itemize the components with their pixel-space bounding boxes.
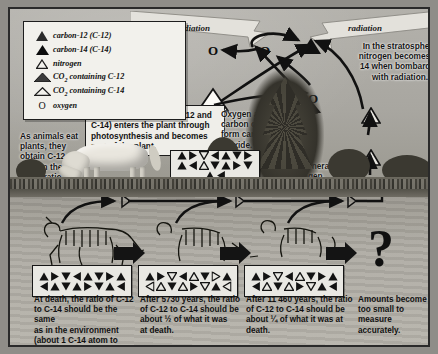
filled-triangle-icon (94, 272, 104, 281)
outline-triangle-icon (284, 282, 294, 291)
outline-triangle-icon (199, 151, 209, 160)
filled-triangle-icon (222, 272, 232, 281)
filled-triangle-icon (251, 281, 260, 291)
horse-tail (147, 144, 162, 172)
filled-triangle-icon (61, 272, 71, 281)
legend-label-0: carbon-12 (C-12) (53, 31, 111, 40)
outline-triangle-icon (199, 161, 209, 170)
filled-triangle-icon (189, 281, 198, 291)
caption-line: as in the environment (34, 326, 138, 336)
filled-triangle-dark-icon (31, 45, 53, 55)
outline-triangle-icon (262, 282, 272, 291)
filled-triangle-icon (145, 272, 155, 281)
horizon-strip (10, 177, 428, 199)
filled-triangle-icon (284, 271, 293, 281)
filled-triangle-icon (116, 281, 125, 291)
outline-triangle-icon (156, 282, 166, 291)
filled-triangle-icon (72, 282, 82, 291)
caption-line: every 10¹² C-12 atoms). (34, 346, 138, 347)
outline-triangle-icon (145, 281, 154, 291)
filled-triangle-icon (233, 160, 242, 170)
filled-triangle-icon (211, 282, 221, 291)
outline-triangle-icon (31, 59, 53, 69)
filled-triangle-icon (317, 271, 326, 281)
timeline-arrow-1 (114, 247, 134, 260)
filled-triangle-icon (221, 161, 231, 170)
filled-triangle-icon (328, 281, 337, 291)
filled-triangle-icon (94, 282, 104, 291)
outline-triangle-icon (167, 272, 177, 281)
timeline-arrow-2 (220, 247, 240, 260)
filled-triangle-icon (31, 31, 53, 41)
legend-label-5: oxygen (53, 101, 77, 110)
filled-triangle-icon (244, 150, 253, 160)
outline-triangle-icon (178, 282, 188, 291)
outline-wide-triangle-icon (31, 87, 53, 96)
caption-too-small: Amounts becometoo small tomeasure accura… (358, 295, 430, 336)
caption-line: about ¼ of what it was at (246, 315, 354, 325)
legend-item-co2-c14: CO2 containing C-14 (31, 85, 179, 98)
filled-triangle-icon (317, 282, 327, 291)
filled-triangle-icon (306, 272, 316, 281)
caption-line: to C-14 should be the same (34, 305, 138, 325)
legend-item-oxygen: O oxygen (31, 99, 179, 112)
filled-triangle-icon (167, 282, 177, 291)
legend-item-carbon-12: carbon-12 (C-12) (31, 29, 179, 42)
outline-triangle-icon (295, 272, 305, 281)
sample-box-at-death (32, 265, 132, 297)
diagram-canvas: radiation radiation In the stratosphere … (0, 0, 438, 354)
filled-triangle-icon (295, 281, 304, 291)
filled-wide-triangle-icon (31, 73, 53, 82)
outline-triangle-icon (200, 282, 210, 291)
caption-line: about ½ of what it was (140, 315, 244, 325)
caption-at-death: At death, the ratio of C-12to C-14 shoul… (34, 295, 138, 347)
caption-line: Amounts become (358, 295, 430, 305)
legend-label-2: nitrogen (53, 59, 82, 68)
filled-triangle-icon (210, 161, 220, 170)
outline-triangle-icon (211, 271, 220, 281)
legend-item-nitrogen: nitrogen (31, 57, 179, 70)
filled-triangle-icon (105, 271, 114, 281)
filled-triangle-icon (189, 160, 198, 170)
caption-line: measure accurately. (358, 315, 430, 335)
caption-line: After 11 460 years, the ratio (246, 295, 354, 305)
timeline-arrow-3 (326, 247, 346, 260)
filled-triangle-icon (177, 151, 187, 160)
filled-triangle-icon (72, 271, 81, 281)
filled-triangle-icon (232, 151, 242, 160)
outline-triangle-icon (189, 272, 199, 281)
filled-triangle-icon (50, 282, 60, 291)
legend-label-1: carbon-14 (C-14) (53, 45, 111, 54)
caption-line: death. (246, 326, 354, 336)
inner-frame: radiation radiation In the stratosphere … (8, 7, 430, 347)
outline-triangle-icon (273, 272, 283, 281)
question-mark-symbol: ? (368, 227, 394, 271)
filled-triangle-icon (156, 271, 165, 281)
legend-label-4: CO2 containing C-14 (53, 86, 124, 97)
legend-item-co2-c12: CO2 containing C-12 (31, 71, 179, 84)
legend-label-3: CO2 containing C-12 (53, 72, 124, 83)
caption-line: of C-12 to C-14 should be (246, 305, 354, 315)
filled-triangle-icon (243, 161, 253, 170)
filled-triangle-icon (50, 271, 59, 281)
filled-triangle-icon (200, 272, 210, 281)
sample-box-after-11460 (244, 265, 344, 297)
outline-triangle-icon (306, 282, 316, 291)
filled-triangle-icon (328, 272, 338, 281)
caption-line: too small to (358, 305, 430, 315)
outline-triangle-icon (222, 281, 231, 291)
filled-triangle-icon (83, 281, 92, 291)
filled-triangle-icon (83, 272, 93, 281)
filled-triangle-icon (251, 272, 261, 281)
filled-triangle-icon (189, 150, 198, 160)
legend-panel: carbon-12 (C-12) carbon-14 (C-14) nitrog… (23, 21, 186, 120)
legend-item-carbon-14: carbon-14 (C-14) (31, 43, 179, 56)
filled-triangle-icon (262, 271, 271, 281)
plant-carbon-sample-box (170, 150, 260, 180)
filled-triangle-icon (39, 281, 48, 291)
filled-triangle-icon (39, 272, 49, 281)
caption-after-5730: After 5730 years, the ratioof C-12 to C-… (140, 295, 244, 336)
filled-triangle-icon (178, 271, 187, 281)
caption-line: At death, the ratio of C-12 (34, 295, 138, 305)
filled-triangle-icon (221, 151, 231, 160)
